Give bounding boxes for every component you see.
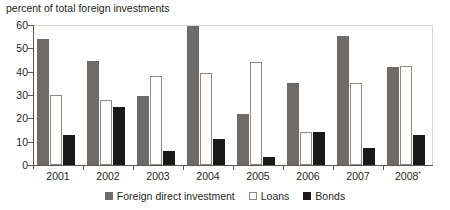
legend-item: Foreign direct investment: [105, 190, 235, 202]
bar: [387, 67, 399, 165]
bar: [200, 73, 212, 165]
legend-label: Bonds: [315, 190, 345, 202]
legend-swatch-fdi: [105, 192, 113, 200]
bar: [213, 139, 225, 165]
bar: [350, 83, 362, 165]
bars-layer: [33, 25, 433, 165]
bar: [63, 135, 75, 165]
x-axis-tick-label: 2005: [233, 170, 283, 182]
chart-figure: percent of total foreign investments 010…: [0, 0, 450, 210]
x-axis-tick-label: 2003: [133, 170, 183, 182]
y-axis-tick-label: 20: [16, 113, 28, 124]
y-axis-tick-label: 40: [16, 67, 28, 78]
y-axis-tick-label: 60: [16, 20, 28, 31]
bar-group: [283, 25, 333, 165]
y-axis-tick-label: 50: [16, 43, 28, 54]
bar: [50, 95, 62, 165]
legend-item: Loans: [249, 190, 290, 202]
x-axis-tick-label: 2002: [83, 170, 133, 182]
bar: [150, 76, 162, 165]
bar-group: [233, 25, 283, 165]
legend-swatch-loans: [249, 192, 257, 200]
legend-label: Foreign direct investment: [117, 190, 235, 202]
plot-area: [33, 25, 433, 165]
x-axis-tick-label: 2008*: [383, 170, 433, 182]
bar-group: [183, 25, 233, 165]
bar: [113, 107, 125, 165]
bar: [187, 26, 199, 165]
bar: [363, 148, 375, 166]
chart-title: percent of total foreign investments: [6, 2, 169, 14]
bar: [300, 132, 312, 165]
bar-group: [383, 25, 433, 165]
y-axis-tick: [28, 165, 33, 166]
bar: [163, 151, 175, 165]
x-label-footnote-marker: *: [418, 170, 421, 177]
bar: [313, 132, 325, 165]
x-axis-tick-label: 2001: [33, 170, 83, 182]
legend-item: Bonds: [303, 190, 345, 202]
y-axis-tick-label: 0: [22, 160, 28, 171]
bar-group: [83, 25, 133, 165]
bar-group: [333, 25, 383, 165]
bar: [263, 157, 275, 165]
bar: [37, 39, 49, 165]
x-axis-tick-label: 2007: [333, 170, 383, 182]
x-axis-tick-label: 2004: [183, 170, 233, 182]
bar: [87, 61, 99, 165]
legend-swatch-bonds: [303, 192, 311, 200]
y-axis-tick-label: 10: [16, 137, 28, 148]
bar: [337, 36, 349, 166]
bar: [137, 96, 149, 165]
bar: [250, 62, 262, 165]
bar: [237, 114, 249, 165]
bar: [287, 83, 299, 165]
bar-group: [133, 25, 183, 165]
y-axis-tick-label: 30: [16, 90, 28, 101]
x-axis-line: [29, 165, 433, 166]
chart-legend: Foreign direct investmentLoansBonds: [0, 190, 450, 202]
bar: [413, 135, 425, 165]
bar: [100, 100, 112, 165]
bar-group: [33, 25, 83, 165]
bar: [400, 66, 412, 165]
legend-label: Loans: [261, 190, 290, 202]
x-axis-tick-label: 2006: [283, 170, 333, 182]
x-axis-labels: 20012002200320042005200620072008*: [33, 170, 433, 184]
